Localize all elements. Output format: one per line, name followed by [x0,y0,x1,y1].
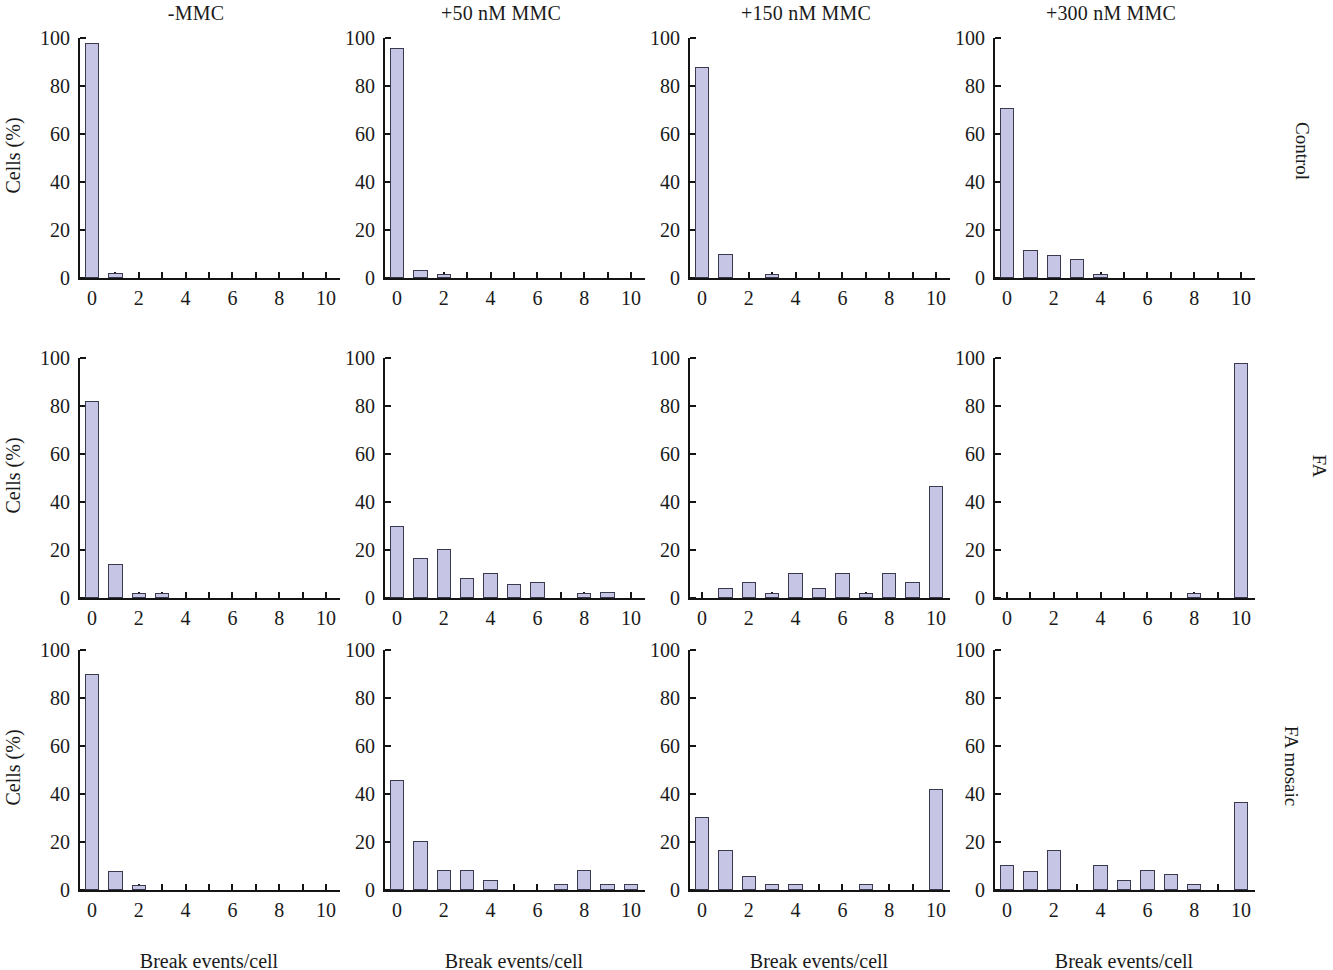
bar [1140,870,1155,890]
x-tick-label: 2 [1029,900,1079,920]
y-tick-label: 100 [931,640,985,660]
y-axis-line [993,650,995,890]
x-tick-label: 10 [1216,900,1266,920]
y-tick-label: 20 [931,832,985,852]
bar [1023,871,1038,890]
y-tick-label: 40 [931,784,985,804]
y-tick [995,793,1001,795]
x-tick-label: 0 [982,900,1032,920]
bar [1187,884,1202,890]
x-tick [1076,884,1078,890]
y-tick [995,745,1001,747]
x-tick-label: 6 [1122,900,1172,920]
bar [1234,802,1249,890]
x-tick [1217,884,1219,890]
bar [1164,874,1179,890]
panel-3-4: 0204060801000246810Break events/cell [0,0,1333,970]
bar [1000,865,1015,890]
bar [1117,880,1132,890]
bar [1093,865,1108,890]
x-tick-label: 4 [1076,900,1126,920]
y-tick [995,697,1001,699]
y-tick-label: 0 [931,880,985,900]
figure-panel-grid: -MMC+50 nM MMC+150 nM MMC+300 nM MMCCont… [0,0,1333,970]
x-axis-title: Break events/cell [974,950,1274,970]
y-tick-label: 60 [931,736,985,756]
y-tick [995,841,1001,843]
y-tick [995,649,1001,651]
x-axis-line [993,890,1255,892]
bar [1047,850,1062,890]
x-tick-label: 8 [1169,900,1219,920]
y-tick-label: 80 [931,688,985,708]
